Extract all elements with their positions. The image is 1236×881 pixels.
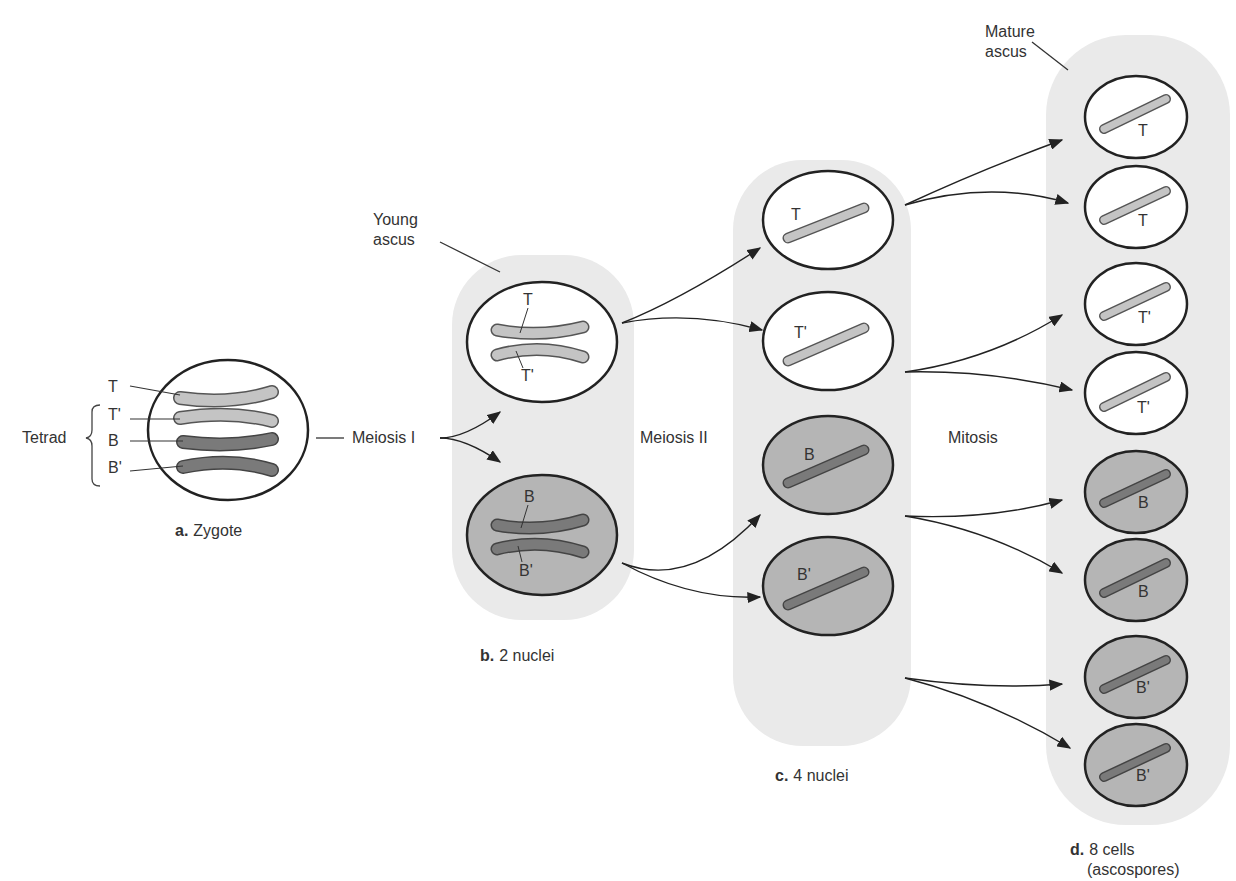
meiosis-diagram: Tetrad T T' B B' a.Zygote Meiosis I Youn… <box>0 0 1236 881</box>
ascospore-7: B' <box>1085 636 1187 718</box>
svg-text:T': T' <box>521 367 534 384</box>
label-B: B <box>108 432 119 449</box>
svg-text:B: B <box>804 446 815 463</box>
label-B-prime: B' <box>108 459 122 476</box>
meiosis-1-label: Meiosis I <box>352 429 415 446</box>
ascospore-6: B <box>1085 539 1187 621</box>
svg-text:T': T' <box>1137 399 1150 416</box>
svg-text:B: B <box>1138 494 1149 511</box>
caption-c: c.4 nuclei <box>775 767 849 784</box>
nucleus-c-B: B <box>763 416 893 514</box>
nucleus-c-T: T <box>763 171 893 269</box>
ascospore-1: T <box>1085 76 1187 158</box>
nucleus-c-B-prime: B' <box>763 537 893 635</box>
svg-text:ascus: ascus <box>373 231 415 248</box>
ascospore-3: T' <box>1085 263 1187 345</box>
meiosis-2-label: Meiosis II <box>640 429 708 446</box>
label-T: T <box>108 378 118 395</box>
svg-text:B': B' <box>1136 767 1150 784</box>
svg-text:ascus: ascus <box>985 43 1027 60</box>
svg-text:B: B <box>1138 583 1149 600</box>
svg-text:B': B' <box>519 562 533 579</box>
ascospore-4: T' <box>1085 352 1187 434</box>
svg-text:T: T <box>791 206 801 223</box>
young-ascus-label: Young <box>373 211 418 228</box>
tetrad-label: Tetrad <box>22 429 66 446</box>
svg-text:T': T' <box>794 324 807 341</box>
caption-a: a.Zygote <box>175 522 242 539</box>
svg-text:T: T <box>1138 212 1148 229</box>
ascospore-5: B <box>1085 451 1187 533</box>
mitosis-label: Mitosis <box>948 429 998 446</box>
svg-text:T': T' <box>1138 309 1151 326</box>
mature-ascus-label: Mature <box>985 23 1035 40</box>
brace <box>86 405 100 486</box>
ascospore-8: B' <box>1085 724 1187 806</box>
caption-d: d.8 cells <box>1070 841 1135 858</box>
svg-text:B': B' <box>1136 679 1150 696</box>
svg-text:B: B <box>524 488 535 505</box>
caption-d-sub: (ascospores) <box>1087 861 1179 878</box>
caption-b: b.2 nuclei <box>480 647 554 664</box>
label-T-prime: T' <box>108 406 121 423</box>
svg-text:T: T <box>523 291 533 308</box>
svg-text:T: T <box>1138 122 1148 139</box>
nucleus-b-B: B B' <box>467 475 617 595</box>
ascospore-2: T <box>1085 166 1187 248</box>
nucleus-b-T: T T' <box>467 282 617 402</box>
nucleus-c-T-prime: T' <box>763 292 893 390</box>
svg-text:B': B' <box>797 566 811 583</box>
zygote <box>148 360 308 500</box>
